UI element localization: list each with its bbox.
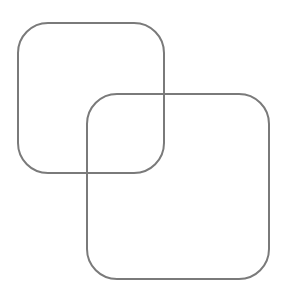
diagram-canvas	[0, 0, 284, 296]
rounded-square-back	[18, 23, 164, 173]
rounded-square-front	[87, 94, 269, 279]
overlapping-rounded-squares-diagram	[0, 0, 284, 296]
